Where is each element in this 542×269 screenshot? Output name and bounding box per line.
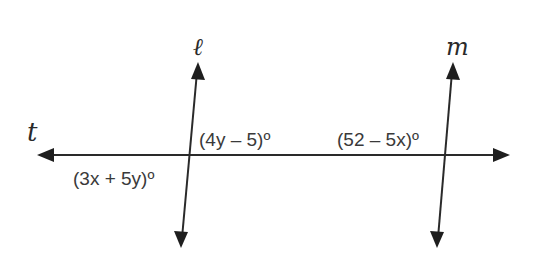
transversal-t xyxy=(37,148,510,162)
arrowhead-up-icon xyxy=(446,62,460,80)
angle-label-3x-plus-5y: (3x + 5y)º xyxy=(73,168,154,189)
angle-label-4y-minus-5: (4y – 5)º xyxy=(199,129,270,150)
arrowhead-left-icon xyxy=(37,148,54,162)
label-t: t xyxy=(27,117,38,147)
arrowhead-down-icon xyxy=(174,231,188,248)
label-m: m xyxy=(446,33,469,61)
arrowhead-up-icon xyxy=(191,62,205,80)
arrowhead-right-icon xyxy=(493,148,510,162)
geometry-diagram: t ℓ m (3x + 5y)º (4y – 5)º (52 – 5x)º xyxy=(0,0,542,269)
label-l: ℓ xyxy=(193,33,203,61)
angle-label-52-minus-5x: (52 – 5x)º xyxy=(337,129,419,150)
arrowhead-down-icon xyxy=(430,231,444,248)
